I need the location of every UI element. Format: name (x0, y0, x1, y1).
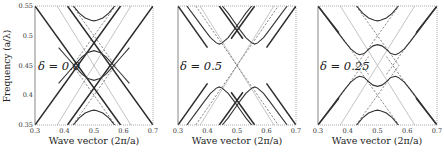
y-tick-label: 0.4 (23, 91, 33, 99)
curve-band-upper-wiggle (318, 6, 437, 55)
curve-band-top (73, 6, 114, 21)
curve-band-lower-wiggle (318, 76, 437, 125)
x-tick-label: 0.6 (402, 127, 412, 135)
x-tick-label: 0.4 (343, 127, 353, 135)
panel-label-delta-0: δ = 0.0 (38, 59, 80, 73)
x-tick-label: 0.5 (232, 127, 242, 135)
curve-outer-line-1 (178, 6, 208, 48)
x-tick-label: 0.5 (89, 127, 99, 135)
x-tick-label: 0.6 (118, 127, 128, 135)
x-tick-label: 0.7 (291, 127, 301, 135)
panel-label-delta-0.25: δ = 0.25 (320, 59, 369, 73)
curve-outer-line-3 (267, 6, 297, 48)
curve-outer-line-2 (178, 83, 208, 125)
panel-label-delta-0.5: δ = 0.5 (180, 59, 222, 73)
x-axis-label-panel-2: Wave vector (2π/a) (192, 135, 283, 146)
y-axis-label: Frequency (a/λ) (2, 30, 12, 103)
y-tick-label: 0.45 (19, 62, 33, 70)
y-tick-label: 0.55 (19, 2, 33, 10)
curve-band-bottom (73, 110, 114, 125)
x-tick-label: 0.3 (173, 127, 183, 135)
x-axis-label-panel-3: Wave vector (2π/a) (332, 135, 423, 146)
x-tick-label: 0.7 (148, 127, 158, 135)
curve-band-top (357, 6, 399, 21)
curve-outer-line-4 (267, 83, 297, 125)
x-tick-label: 0.4 (202, 127, 212, 135)
y-tick-label: 0.5 (23, 32, 33, 40)
y-tick-label: 0.35 (19, 121, 33, 129)
x-tick-label: 0.4 (59, 127, 69, 135)
x-axis-label-panel-1: Wave vector (2π/a) (49, 135, 140, 146)
band-diagram-figure: Frequency (a/λ) 0.30.40.50.60.70.350.40.… (0, 0, 444, 153)
curve-band-bottom (357, 110, 399, 125)
x-tick-label: 0.7 (432, 127, 442, 135)
x-tick-label: 0.3 (313, 127, 323, 135)
x-tick-label: 0.6 (261, 127, 271, 135)
x-tick-label: 0.5 (372, 127, 382, 135)
